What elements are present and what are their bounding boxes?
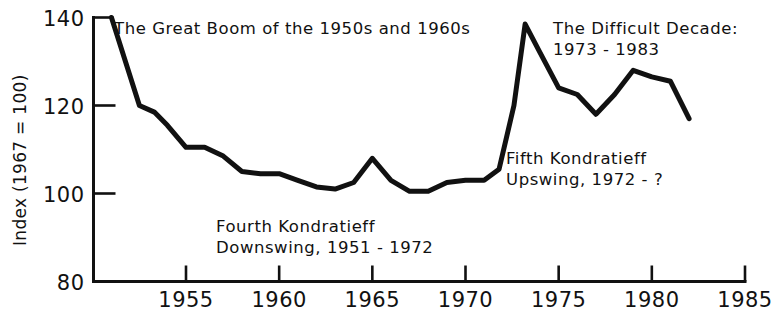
fifth-kondratieff-label: Fifth Kondratieff Upswing, 1972 - ? (506, 148, 663, 190)
x-tick-label-1975: 1975 (531, 288, 586, 312)
x-axis-ticks (186, 266, 745, 282)
y-tick-label-80: 80 (57, 271, 85, 295)
chart-figure: { "chart_data": { "type": "line", "title… (0, 0, 772, 330)
y-axis-title: Index (1967 = 100) (10, 74, 30, 246)
fourth-kondratieff-label: Fourth Kondratieff Downswing, 1951 - 197… (216, 216, 433, 258)
great-boom-label: The Great Boom of the 1950s and 1960s (114, 18, 470, 39)
y-axis-tick-labels: 80100120140 (43, 7, 85, 295)
x-tick-label-1970: 1970 (438, 288, 493, 312)
x-axis-tick-labels: 1955196019651970197519801985 (158, 288, 772, 312)
x-tick-label-1960: 1960 (251, 288, 306, 312)
y-tick-label-140: 140 (43, 7, 85, 31)
y-tick-label-120: 120 (43, 95, 85, 119)
x-tick-label-1985: 1985 (717, 288, 772, 312)
x-tick-label-1965: 1965 (345, 288, 400, 312)
y-tick-label-100: 100 (43, 183, 85, 207)
difficult-decade-label: The Difficult Decade: 1973 - 1983 (553, 18, 738, 60)
y-axis-ticks (94, 18, 116, 282)
x-tick-label-1980: 1980 (624, 288, 679, 312)
x-tick-label-1955: 1955 (158, 288, 213, 312)
